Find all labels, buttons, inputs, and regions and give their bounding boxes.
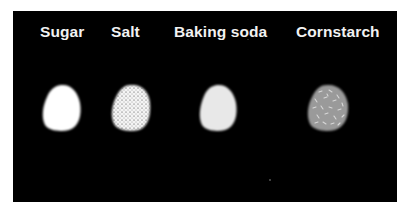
sample-photo-panel: Sugar Salt Baking soda Cornstarch	[13, 11, 397, 202]
dust-speck	[269, 179, 271, 181]
salt-sample-blob	[109, 83, 153, 133]
baking-soda-sample-blob	[198, 83, 240, 133]
dust-speck	[247, 39, 249, 40]
label-salt: Salt	[111, 23, 140, 41]
label-sugar: Sugar	[40, 23, 84, 41]
label-cornstarch: Cornstarch	[296, 23, 380, 41]
sugar-sample-blob	[41, 83, 83, 133]
cornstarch-sample-blob	[305, 83, 351, 133]
label-baking-soda: Baking soda	[174, 23, 267, 41]
